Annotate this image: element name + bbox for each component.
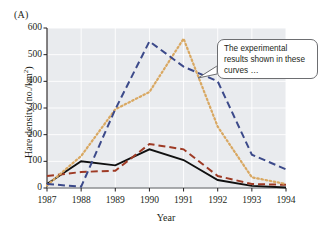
callout-text: The experimental results shown in these … bbox=[224, 43, 312, 76]
callout-box: The experimental results shown in these … bbox=[217, 39, 318, 79]
plot-area bbox=[0, 0, 326, 234]
x-axis-label: Year bbox=[47, 212, 285, 223]
figure-panel-a: (A) Hare density (no./km2) 6005004003002… bbox=[0, 0, 326, 234]
